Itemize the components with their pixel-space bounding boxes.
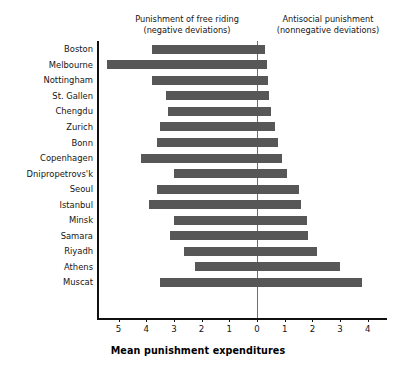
left-column-header-title: Punishment of free riding: [135, 14, 239, 24]
bar-istanbul: [149, 200, 301, 209]
right-column-header-title: Antisocial punishment: [283, 14, 374, 24]
x-tick-mark: [368, 318, 369, 322]
x-axis-title: Mean punishment expenditures: [0, 345, 396, 356]
bar-zurich: [160, 122, 275, 131]
bar-minsk: [174, 216, 307, 225]
x-tick-mark: [229, 318, 230, 322]
x-tick-label: 3: [329, 324, 351, 334]
bar-dnipropetrovs-k: [174, 169, 288, 178]
bar-seoul: [157, 185, 298, 194]
x-tick-mark: [119, 318, 120, 322]
bar-melbourne: [107, 60, 266, 69]
x-tick-label: 4: [135, 324, 157, 334]
x-tick-label: 2: [301, 324, 323, 334]
x-axis-line: [97, 318, 387, 320]
bar-st-gallen: [166, 91, 270, 100]
right-column-header: Antisocial punishment (nonnegative devia…: [258, 14, 396, 36]
bar-chengdu: [168, 107, 270, 116]
bar-riyadh: [184, 247, 317, 256]
bar-nottingham: [152, 76, 268, 85]
bar-boston: [152, 45, 266, 54]
left-column-header-subtitle: (negative deviations): [117, 25, 257, 36]
x-tick-label: 4: [357, 324, 379, 334]
x-tick-label: 5: [108, 324, 130, 334]
x-tick-label: 1: [274, 324, 296, 334]
x-tick-label: 3: [163, 324, 185, 334]
x-tick-mark: [312, 318, 313, 322]
x-tick-mark: [257, 318, 258, 322]
x-tick-mark: [202, 318, 203, 322]
bar-muscat: [160, 278, 362, 287]
x-tick-label: 2: [191, 324, 213, 334]
bar-samara: [170, 231, 309, 240]
bar-copenhagen: [141, 154, 282, 163]
x-tick-mark: [340, 318, 341, 322]
right-column-header-subtitle: (nonnegative deviations): [258, 25, 396, 36]
bar-athens: [195, 262, 340, 271]
bar-series-group: [0, 41, 396, 318]
punishment-expenditures-chart: Punishment of free riding (negative devi…: [0, 0, 396, 378]
x-tick-mark: [285, 318, 286, 322]
x-tick-mark: [174, 318, 175, 322]
left-column-header: Punishment of free riding (negative devi…: [117, 14, 257, 36]
x-tick-label: 0: [246, 324, 268, 334]
x-tick-label: 1: [218, 324, 240, 334]
x-tick-mark: [146, 318, 147, 322]
bar-bonn: [157, 138, 277, 147]
